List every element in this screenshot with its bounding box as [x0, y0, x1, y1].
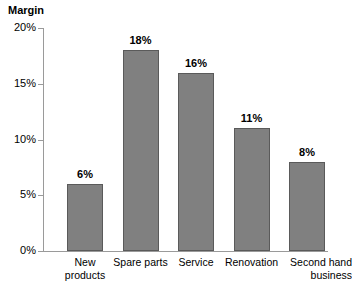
- y-axis-tick-label: 5%: [0, 189, 36, 200]
- y-axis-tick-mark: [38, 251, 43, 252]
- chart-title: Margin: [8, 4, 44, 17]
- y-axis-tick-mark: [38, 195, 43, 196]
- x-axis-category-label-line: products: [50, 269, 120, 282]
- bar: [123, 50, 159, 251]
- y-axis-tick-label: 10%: [0, 134, 36, 145]
- x-axis-category-label: Second handbusiness: [276, 256, 352, 282]
- bar: [178, 73, 214, 251]
- y-axis-tick-label: 15%: [0, 78, 36, 89]
- x-axis-category-label-line: business: [276, 269, 352, 282]
- x-axis-line: [43, 251, 328, 252]
- y-axis-tick-label: 20%: [0, 22, 36, 33]
- bar-value-label: 8%: [277, 146, 337, 158]
- y-axis-line: [43, 28, 44, 252]
- y-axis-tick-mark: [38, 140, 43, 141]
- bar-value-label: 18%: [111, 34, 171, 46]
- y-axis-tick-label: 0%: [0, 245, 36, 256]
- bar-value-label: 11%: [222, 112, 282, 124]
- bar-value-label: 16%: [166, 57, 226, 69]
- y-axis-tick-mark: [38, 28, 43, 29]
- bar: [67, 184, 103, 251]
- bar-value-label: 6%: [55, 168, 115, 180]
- bar: [234, 128, 270, 251]
- x-axis-category-label-line: Second hand: [276, 256, 352, 269]
- bar: [289, 162, 325, 251]
- y-axis-tick-mark: [38, 84, 43, 85]
